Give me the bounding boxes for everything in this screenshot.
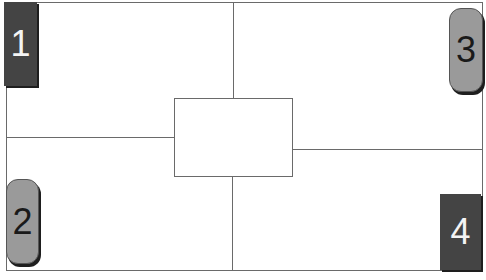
- quadrant-1-label: 1: [10, 26, 30, 62]
- quadrant-1-tile: 1: [4, 2, 37, 86]
- center-box: [174, 98, 293, 177]
- quadrant-4-label: 4: [450, 214, 470, 250]
- quadrant-3-tile: 3: [449, 8, 483, 92]
- quadrant-2-tile: 2: [6, 179, 39, 264]
- quadrant-3-label: 3: [456, 32, 476, 68]
- divider-right-horizontal: [293, 149, 483, 150]
- divider-left-horizontal: [6, 137, 174, 138]
- divider-top-vertical: [233, 2, 234, 98]
- quadrant-4-tile: 4: [440, 194, 481, 270]
- divider-bottom-vertical: [232, 177, 233, 271]
- quadrant-2-label: 2: [12, 204, 32, 240]
